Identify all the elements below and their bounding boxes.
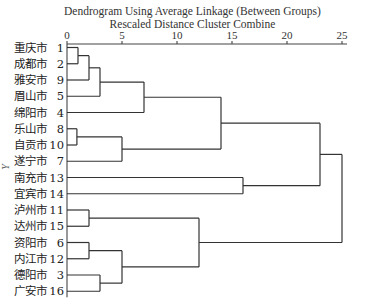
leaf-label-id: 2	[57, 57, 64, 71]
leaf-label-name: 绵阳市	[14, 106, 47, 120]
leaf-label-id: 15	[49, 219, 64, 233]
leaf-label-name: 重庆市	[14, 41, 47, 55]
leaf-label-id: 6	[57, 236, 64, 250]
y-axis-label: Y	[0, 163, 11, 170]
x-tick-label: 25	[337, 29, 349, 41]
leaf-label-name: 资阳市	[14, 236, 47, 250]
x-tick-label: 15	[227, 29, 239, 41]
leaf-label-name: 达州市	[14, 219, 47, 233]
leaf-label-name: 遂宁市	[14, 154, 47, 168]
x-tick-label: 0	[64, 29, 70, 41]
leaf-label-name: 广安市	[14, 284, 47, 298]
x-tick-label: 10	[172, 29, 184, 41]
leaf-label-name: 泸州市	[14, 203, 47, 217]
leaf-label-name: 雅安市	[14, 73, 47, 87]
dendrogram-plot: 0510152025Y重庆市1成都市2雅安市9眉山市5绵阳市4乐山市8自贡市10…	[0, 0, 365, 304]
leaf-label-id: 14	[49, 187, 64, 201]
leaf-label-id: 5	[57, 89, 64, 103]
leaf-label-id: 3	[57, 268, 64, 282]
leaf-label-name: 乐山市	[14, 122, 47, 136]
leaf-label-id: 4	[57, 106, 64, 120]
leaf-label-name: 眉山市	[14, 89, 47, 103]
leaf-label-id: 13	[49, 171, 64, 185]
leaf-label-id: 10	[49, 138, 64, 152]
leaf-label-name: 自贡市	[14, 138, 47, 152]
leaf-label-id: 12	[49, 252, 64, 266]
x-tick-label: 5	[119, 29, 125, 41]
leaf-label-name: 南充市	[14, 171, 47, 185]
leaf-label-id: 8	[57, 122, 64, 136]
leaf-label-id: 7	[57, 154, 64, 168]
leaf-label-name: 内江市	[14, 252, 47, 266]
leaf-label-name: 德阳市	[14, 268, 47, 282]
leaf-label-id: 16	[49, 284, 64, 298]
x-tick-label: 20	[282, 29, 294, 41]
leaf-label-id: 11	[49, 203, 64, 217]
leaf-label-name: 宜宾市	[14, 187, 47, 201]
leaf-label-id: 1	[57, 41, 64, 55]
leaf-label-name: 成都市	[14, 57, 47, 71]
leaf-label-id: 9	[57, 73, 64, 87]
